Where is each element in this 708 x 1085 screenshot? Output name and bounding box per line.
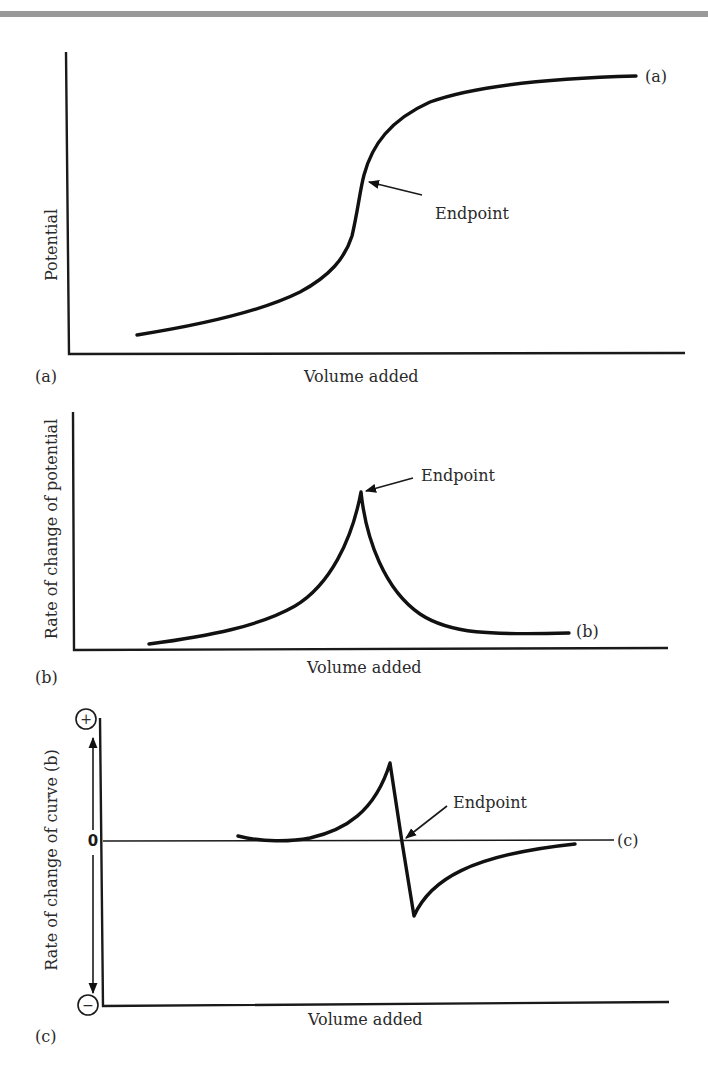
panel-b-axes (73, 412, 668, 650)
panel-c-panel-label: (c) (35, 1027, 56, 1046)
panel-b-annotation-arrow (366, 478, 413, 491)
panel-b-series-label: (b) (576, 622, 599, 641)
panel-c-zero-line (103, 840, 614, 841)
panel-b-annotation: Endpoint (421, 466, 496, 485)
panel-c-axes (100, 718, 669, 1006)
panel-c: Endpoint (c) Volume added Rate of change… (35, 709, 669, 1046)
panel-b-panel-label: (b) (35, 668, 58, 687)
minus-symbol: − (82, 997, 94, 1013)
panel-a-x-label: Volume added (303, 367, 419, 386)
panel-b-curve (149, 492, 569, 644)
panel-a-y-label: Potential (42, 209, 61, 281)
panel-a-curve (137, 76, 636, 335)
panel-b: Endpoint (b) Volume added Rate of change… (35, 412, 668, 687)
panel-c-y-label: Rate of change of curve (b) (42, 749, 61, 970)
panel-c-annotation-arrow (406, 806, 447, 838)
titration-figure: Endpoint (a) Volume added Potential (a) … (0, 0, 708, 1085)
panel-b-x-label: Volume added (306, 658, 422, 677)
panel-c-x-label: Volume added (307, 1010, 423, 1029)
panel-a-annotation-arrow (369, 182, 422, 195)
zero-symbol: 0 (88, 832, 98, 850)
panel-a-axes (66, 52, 685, 354)
panel-a-annotation: Endpoint (435, 204, 510, 223)
panel-b-y-label: Rate of change of potential (42, 419, 61, 639)
panel-a-panel-label: (a) (35, 367, 57, 386)
plus-symbol: + (80, 711, 92, 727)
panel-a-series-label: (a) (645, 67, 667, 86)
panel-a: Endpoint (a) Volume added Potential (a) (35, 52, 685, 386)
panel-c-annotation: Endpoint (453, 793, 528, 812)
panel-c-series-label: (c) (617, 831, 638, 850)
